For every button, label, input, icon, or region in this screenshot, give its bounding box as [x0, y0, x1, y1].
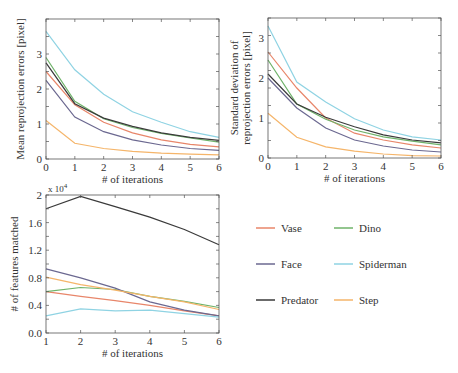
y-axis-label: Standard deviation of	[228, 40, 240, 135]
x-tick-label: 4	[381, 160, 387, 172]
series-line-step	[268, 113, 441, 156]
y-tick-label: 1	[37, 118, 43, 130]
legend: VaseDinoFaceSpidermanPredatorStep	[256, 222, 407, 306]
legend-label: Face	[281, 258, 302, 270]
x-axis-label: # of iterations	[102, 173, 163, 185]
legend-label: Vase	[281, 222, 302, 234]
series-line-spiderman	[46, 309, 219, 317]
x-tick-label: 0	[43, 161, 49, 173]
x-tick-label: 6	[216, 335, 222, 347]
y-axis-label: reprojection errors [pixel]	[240, 31, 252, 145]
legend-item-step: Step	[334, 294, 379, 306]
y-tick-label: 1.2	[28, 244, 42, 256]
x-tick-label: 6	[216, 161, 222, 173]
series-line-dino	[268, 60, 441, 145]
x-tick-label: 1	[72, 161, 78, 173]
y-tick-label: 3	[259, 32, 265, 44]
x-tick-label: 5	[182, 335, 188, 347]
figure: 01234560123# of iterationsMean reproject…	[0, 0, 458, 373]
x-tick-label: 5	[409, 160, 415, 172]
series-line-dino	[46, 288, 219, 308]
legend-item-predator: Predator	[256, 294, 319, 306]
x-tick-label: 0	[265, 160, 271, 172]
legend-label: Predator	[281, 294, 319, 306]
y-tick-label: 2	[37, 189, 43, 201]
x-tick-label: 3	[130, 161, 136, 173]
y-tick-label: 0	[37, 153, 43, 165]
legend-item-spiderman: Spiderman	[334, 258, 407, 270]
y-tick-label: 1	[259, 112, 265, 124]
x-axis-label: # of iterations	[324, 172, 385, 184]
legend-label: Spiderman	[359, 258, 407, 270]
y-tick-label: 0	[259, 152, 265, 164]
y-tick-label: 0.4	[28, 299, 42, 311]
legend-label: Dino	[359, 222, 382, 234]
series-line-vase	[46, 72, 219, 147]
legend-label: Step	[359, 294, 379, 306]
x-tick-label: 4	[159, 161, 165, 173]
y-axis-label: # of features matched	[8, 216, 20, 311]
x-tick-label: 2	[101, 161, 107, 173]
series-line-face	[268, 78, 441, 152]
y-tick-label: 2	[37, 83, 43, 95]
series-line-face	[46, 80, 219, 150]
x-tick-label: 1	[294, 160, 300, 172]
series-line-predator	[46, 196, 219, 244]
y-axis-label: Mean reprojection errors [pixel]	[14, 18, 26, 159]
y-tick-label: 0.0	[28, 327, 42, 339]
x-tick-label: 4	[147, 335, 153, 347]
x-tick-label: 1	[43, 335, 49, 347]
x-tick-label: 2	[323, 160, 329, 172]
y-tick-label: 3	[37, 48, 43, 60]
y-tick-label: 2	[259, 72, 265, 84]
series-line-spiderman	[268, 26, 441, 140]
legend-item-dino: Dino	[334, 222, 382, 234]
x-axis-label: # of iterations	[102, 347, 163, 359]
x-tick-label: 5	[187, 161, 193, 173]
legend-item-vase: Vase	[256, 222, 302, 234]
legend-item-face: Face	[256, 258, 302, 270]
chart-1: 01234560123# of iterationsMean reproject…	[14, 18, 222, 185]
series-line-spiderman	[46, 31, 219, 137]
x-tick-label: 3	[352, 160, 358, 172]
series-line-step	[46, 277, 219, 309]
chart-2: 01234560123# of iterationsStandard devia…	[228, 18, 444, 184]
x-tick-label: 2	[78, 335, 84, 347]
x-tick-label: 6	[438, 160, 444, 172]
series-line-face	[46, 269, 219, 316]
x-tick-label: 3	[112, 335, 118, 347]
chart-3: 1234560.00.40.81.21.62# of iterations# o…	[8, 182, 222, 359]
y-tick-label: 0.8	[28, 272, 42, 284]
figure-canvas: 01234560123# of iterationsMean reproject…	[0, 0, 458, 373]
y-multiplier-label: x 104	[48, 182, 68, 194]
y-tick-label: 1.6	[28, 217, 42, 229]
